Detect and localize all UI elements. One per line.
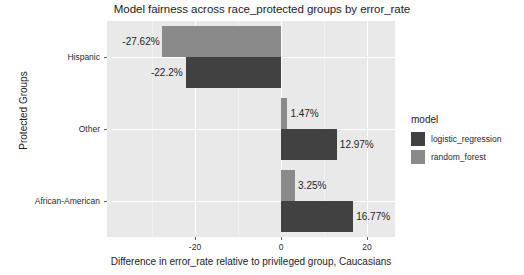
plot-area: -27.62%-22.2%1.47%12.97%3.25%16.77% <box>107 21 395 237</box>
legend-title: model <box>411 114 501 125</box>
x-axis-title: Difference in error_rate relative to pri… <box>107 256 395 267</box>
bar-logistic-regression <box>186 57 281 88</box>
legend-label: random_forest <box>431 152 486 162</box>
legend-swatch <box>411 132 425 146</box>
y-tick-label: Hispanic <box>0 52 100 62</box>
bar-logistic-regression <box>281 129 337 160</box>
bar-random-forest <box>162 26 281 57</box>
bar-value-label: 1.47% <box>290 98 318 129</box>
legend-label: logistic_regression <box>431 134 501 144</box>
chart-container: Model fairness across race_protected gro… <box>0 0 524 275</box>
y-tick-mark <box>104 129 107 130</box>
y-tick-label: Other <box>0 124 100 134</box>
bar-logistic-regression <box>281 201 353 232</box>
x-tick-label: 20 <box>362 242 371 252</box>
chart-title: Model fairness across race_protected gro… <box>0 3 524 15</box>
bar-value-label: 3.25% <box>298 170 326 201</box>
bar-value-label: -22.2% <box>146 57 183 88</box>
bar-value-label: 16.77% <box>356 201 390 232</box>
legend-entries: logistic_regressionrandom_forest <box>411 130 501 165</box>
legend-item[interactable]: logistic_regression <box>411 130 501 147</box>
x-tick-mark <box>281 237 282 240</box>
bar-value-label: 12.97% <box>340 129 374 160</box>
legend-swatch <box>411 150 425 164</box>
bar-random-forest <box>281 98 287 129</box>
legend-item[interactable]: random_forest <box>411 148 501 165</box>
x-tick-label: 0 <box>279 242 284 252</box>
bar-value-label: -27.62% <box>122 26 159 57</box>
bar-random-forest <box>281 170 295 201</box>
x-tick-mark <box>195 237 196 240</box>
legend: model logistic_regressionrandom_forest <box>411 114 501 166</box>
y-tick-mark <box>104 57 107 58</box>
x-tick-label: -20 <box>189 242 201 252</box>
y-tick-label: African-American <box>0 196 100 206</box>
x-tick-mark <box>367 237 368 240</box>
y-tick-mark <box>104 201 107 202</box>
